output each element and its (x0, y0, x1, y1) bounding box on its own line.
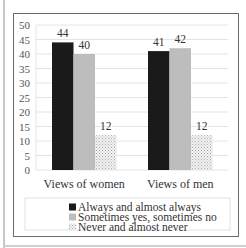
y-tick-label: 10 (19, 135, 31, 147)
y-tick-label: 20 (19, 106, 31, 118)
bar (170, 48, 192, 170)
bar (191, 135, 213, 170)
data-label: 42 (175, 33, 187, 45)
y-tick-label: 0 (25, 164, 31, 176)
data-label: 12 (196, 120, 208, 132)
y-tick-label: 15 (19, 121, 31, 133)
data-label: 12 (100, 120, 112, 132)
data-label: 44 (57, 27, 69, 39)
bar (52, 42, 74, 170)
y-tick-label: 25 (19, 92, 31, 104)
legend-label: Never and almost never (78, 221, 188, 233)
category-label: Views of women (44, 177, 125, 191)
category-label: Views of men (147, 177, 214, 191)
bar (95, 135, 117, 170)
y-tick-label: 40 (19, 48, 31, 60)
y-tick-label: 50 (19, 19, 31, 31)
legend-swatch (69, 204, 76, 211)
legend-swatch (69, 224, 76, 231)
bar (74, 54, 96, 170)
y-tick-label: 45 (19, 34, 31, 46)
y-tick-label: 35 (19, 63, 31, 75)
bar (148, 51, 170, 170)
y-tick-label: 5 (25, 150, 31, 162)
data-label: 40 (79, 39, 91, 51)
legend-swatch (69, 214, 76, 221)
legend: Always and almost alwaysSometimes yes, s… (25, 198, 230, 233)
y-tick-label: 30 (19, 77, 31, 89)
data-label: 41 (153, 36, 165, 48)
bars (52, 42, 213, 170)
bar-chart: 05101520253035404550 444012414212 Views … (0, 0, 246, 248)
x-axis-categories: Views of womenViews of men (44, 177, 214, 191)
y-axis: 05101520253035404550 (19, 19, 31, 176)
